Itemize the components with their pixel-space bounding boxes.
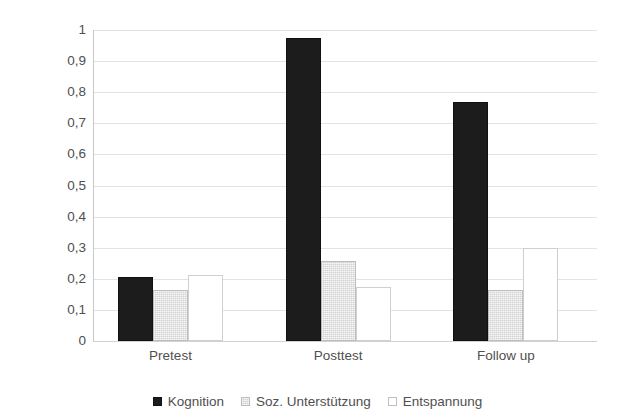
bar-chart: 00,10,20,30,40,50,60,70,80,91 PretestPos… [0,0,635,419]
y-axis-tick-label: 0,8 [6,85,86,99]
bar-kognition-2 [453,102,488,341]
y-axis-tick-label: 0,2 [6,272,86,286]
bar-group [429,30,597,341]
legend-item-entspannung: Entspannung [388,395,483,409]
y-axis-tick-label: 0,1 [6,303,86,317]
bar-sozial-0 [153,290,188,341]
gridline [94,341,597,342]
chart-legend: Kognition Soz. Unterstützung Entspannung [0,395,635,409]
y-axis-tick-label: 0 [6,334,86,348]
bar-sozial-2 [488,290,523,341]
y-axis-tick-label: 0,5 [6,179,86,193]
y-axis-tick-label: 1 [6,23,86,37]
legend-label-soz-unterstuetzung: Soz. Unterstützung [256,395,371,409]
legend-item-soz-unterstuetzung: Soz. Unterstützung [241,395,371,409]
bar-kognition-0 [118,277,153,341]
legend-item-kognition: Kognition [153,395,224,409]
legend-swatch-icon-kognition [153,397,162,406]
bar-entspannung-0 [188,275,223,341]
plot-area [94,30,597,341]
y-axis-tick-label: 0,3 [6,241,86,255]
legend-label-kognition: Kognition [168,395,224,409]
x-axis-label-0: Pretest [149,349,192,363]
legend-swatch-icon-soz-unterstuetzung [241,397,250,406]
legend-label-entspannung: Entspannung [403,395,483,409]
legend-swatch-icon-entspannung [388,397,397,406]
y-axis-line [93,30,94,342]
bar-kognition-1 [286,38,321,341]
bar-group [94,30,262,341]
x-axis-label-1: Posttest [314,349,363,363]
y-axis-tick-label: 0,7 [6,117,86,131]
x-axis-category-labels: PretestPosttestFollow up [94,349,597,371]
y-axis-tick-labels: 00,10,20,30,40,50,60,70,80,91 [0,0,86,419]
bar-entspannung-1 [356,287,391,341]
y-axis-tick-label: 0,9 [6,54,86,68]
bar-entspannung-2 [523,248,558,341]
bar-group [262,30,430,341]
y-axis-tick-label: 0,6 [6,148,86,162]
y-axis-tick-label: 0,4 [6,210,86,224]
x-axis-label-2: Follow up [477,349,535,363]
bar-sozial-1 [321,261,356,341]
